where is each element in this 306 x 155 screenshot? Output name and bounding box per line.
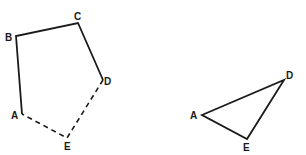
triangle-label-e: E <box>243 142 250 153</box>
geometry-diagram: B C D A E A D E <box>0 0 306 155</box>
label-b: B <box>5 32 12 43</box>
triangle-edges <box>202 80 284 139</box>
triangle-figure: A D E <box>190 70 293 153</box>
label-c: C <box>74 11 81 22</box>
pentagon-dashed-edges <box>22 80 103 138</box>
triangle-label-d: D <box>286 70 293 81</box>
label-a: A <box>11 110 18 121</box>
label-e: E <box>64 141 71 152</box>
pentagon-solid-edges <box>16 23 103 114</box>
triangle-label-a: A <box>190 110 197 121</box>
pentagon-figure: B C D A E <box>5 11 111 152</box>
label-d: D <box>104 76 111 87</box>
